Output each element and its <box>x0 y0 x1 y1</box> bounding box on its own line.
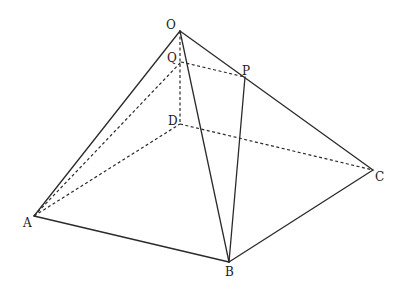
edge-AD <box>34 124 180 216</box>
label-D: D <box>168 114 178 128</box>
label-A: A <box>22 216 32 230</box>
edge-OB <box>180 31 229 262</box>
label-P: P <box>242 64 250 78</box>
edge-DC <box>180 124 373 170</box>
label-B: B <box>225 265 234 279</box>
edge-AB <box>34 216 229 262</box>
edge-BC <box>229 170 373 262</box>
pyramid-diagram: O Q P D A B C <box>0 0 403 290</box>
edge-QP <box>181 62 245 77</box>
label-Q: Q <box>167 51 177 65</box>
label-C: C <box>375 170 384 184</box>
edge-OA <box>34 31 180 216</box>
label-O: O <box>166 18 176 32</box>
edge-PB <box>229 77 245 262</box>
edge-AQ <box>34 62 181 216</box>
edge-OC <box>180 31 373 170</box>
